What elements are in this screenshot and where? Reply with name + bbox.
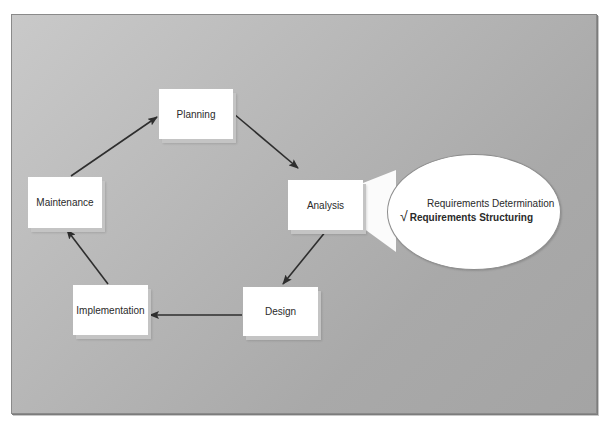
checkmark-icon: √ [400, 208, 408, 224]
arrow-analysis-to-design [283, 231, 326, 284]
node-planning: Planning [159, 89, 233, 139]
node-maintenance: Maintenance [28, 177, 102, 228]
node-label: Analysis [307, 200, 344, 211]
node-label: Implementation [76, 305, 144, 316]
arrow-planning-to-analysis [234, 114, 298, 168]
callout-item-requirements-structuring: √Requirements Structuring [400, 210, 580, 224]
callout-item-label: Requirements Structuring [410, 212, 533, 223]
node-implementation: Implementation [73, 285, 148, 335]
node-design: Design [243, 287, 318, 336]
arrow-implementation-to-maintenance [67, 230, 108, 284]
node-label: Planning [177, 109, 216, 120]
node-label: Design [265, 306, 296, 317]
arrow-maintenance-to-planning [71, 117, 157, 176]
node-analysis: Analysis [288, 180, 363, 230]
callout-item-requirements-determination: Requirements Determination [427, 198, 580, 210]
node-label: Maintenance [36, 197, 93, 208]
callout-list: Requirements Determination √Requirements… [400, 198, 580, 224]
callout-item-label: Requirements Determination [427, 198, 554, 209]
